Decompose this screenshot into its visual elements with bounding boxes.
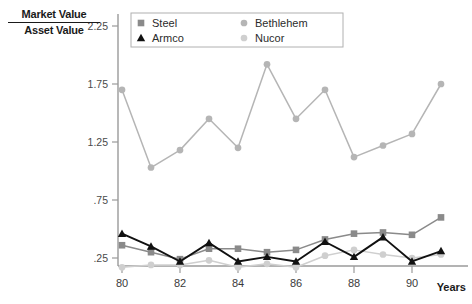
legend-label: Nucor [255,32,285,44]
data-point-marker [380,251,387,258]
chart-plot-area: 2.251.751.25.75.25 808284868890 SteelBet… [0,0,472,304]
data-point-marker [264,260,271,267]
data-point-marker [148,164,155,171]
data-point-marker [438,81,445,88]
data-point-marker [235,245,242,252]
x-axis-label: Years [437,281,466,293]
data-point-marker [235,264,242,271]
y-tick-label: .25 [93,252,108,264]
legend-label: Bethlehem [255,17,308,29]
data-point-marker [351,230,358,237]
data-point-marker [438,214,445,221]
data-point-marker [119,242,126,249]
x-tick-label: 86 [290,277,302,289]
data-point-marker [206,115,213,122]
legend-label: Steel [152,17,177,29]
y-axis-ticks: 2.251.751.25.75.25 [88,20,118,264]
data-point-marker [205,239,213,246]
chart-container: Market Value Asset Value 2.251.751.25.75… [0,0,472,304]
data-point-marker [409,131,416,138]
chart-series-layer [118,61,445,271]
data-point-marker [148,249,155,256]
data-point-marker [148,262,155,269]
y-tick-label: 1.25 [88,136,109,148]
x-tick-label: 82 [174,277,186,289]
data-point-marker [119,86,126,93]
data-point-marker [177,147,184,154]
x-tick-label: 90 [406,277,418,289]
y-axis-label-denominator: Asset Value [8,23,100,37]
data-point-marker [264,61,271,68]
series-line [122,217,441,259]
data-point-marker [351,154,358,161]
data-point-marker [293,115,300,122]
data-point-marker [437,247,445,254]
data-point-marker [241,35,248,42]
y-tick-label: 1.75 [88,78,109,90]
data-point-marker [118,229,126,236]
y-axis-label: Market Value Asset Value [8,8,100,37]
data-point-marker [206,245,213,252]
data-point-marker [241,20,248,27]
data-point-marker [293,247,300,254]
data-point-marker [380,142,387,149]
data-point-marker [206,257,213,264]
x-axis-ticks: 808284868890 [116,266,418,289]
data-point-marker [293,264,300,271]
x-tick-label: 88 [348,277,360,289]
series-bethlehem [119,61,445,171]
legend-label: Armco [152,32,184,44]
data-point-marker [138,20,145,27]
data-point-marker [235,144,242,151]
data-point-marker [409,232,416,239]
y-axis-label-numerator: Market Value [8,8,100,23]
series-line [122,64,441,167]
data-point-marker [322,86,329,93]
y-tick-label: .75 [93,194,108,206]
chart-legend: SteelBethlehemArmcoNucor [131,13,343,47]
data-point-marker [119,264,126,271]
data-point-marker [322,252,329,259]
x-tick-label: 84 [232,277,244,289]
data-point-marker [351,247,358,254]
series-armco [118,229,445,264]
x-tick-label: 80 [116,277,128,289]
